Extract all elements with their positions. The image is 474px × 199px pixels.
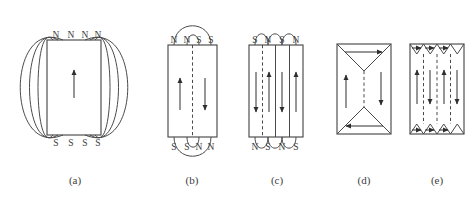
pole-label-a-bottom-1: S	[68, 138, 73, 148]
pole-label-c-top-3: N	[293, 35, 300, 45]
panel-d	[337, 44, 391, 134]
pole-label-a-top-3: N	[95, 30, 102, 40]
pole-label-b-bottom-3: N	[208, 142, 215, 152]
pole-label-b-bottom-1: S	[184, 142, 189, 152]
pole-label-c-bottom-3: S	[293, 142, 298, 152]
pole-label-b-top-3: S	[208, 35, 213, 45]
panel-b: NNSSSSNN	[168, 26, 217, 156]
pole-label-c-top-2: S	[279, 35, 284, 45]
pole-label-c-top-1: N	[265, 35, 272, 45]
panel-caption-a: (a)	[69, 174, 82, 187]
pole-label-a-bottom-0: S	[53, 138, 58, 148]
closure-line-d-2	[337, 107, 364, 134]
field-line-a-left-2	[20, 37, 63, 137]
pole-label-b-top-1: N	[184, 35, 191, 45]
pole-label-b-bottom-2: N	[196, 142, 203, 152]
closure-line-d-0	[337, 44, 364, 71]
field-line-a-left-1	[30, 37, 59, 137]
pole-label-c-top-0: S	[252, 35, 257, 45]
field-line-a-left-0	[38, 37, 53, 137]
panel-caption-d: (d)	[358, 174, 371, 187]
field-line-a-right-4	[90, 37, 119, 137]
pole-label-a-top-0: N	[53, 30, 60, 40]
pole-label-a-top-1: N	[68, 30, 75, 40]
closure-line-d-1	[364, 44, 391, 71]
pole-label-c-bottom-0: N	[252, 142, 259, 152]
panel-c: SNSNNSNS	[249, 34, 303, 152]
pole-label-a-top-2: N	[82, 30, 89, 40]
magnetic-domain-figure: NNNNSSSSNNSSSSNNSNSNNSNS (a)(b)(c)(d)(e)	[0, 0, 474, 199]
panels-layer: NNNNSSSSNNSSSSNNSNSNNSNS	[20, 26, 464, 156]
pole-label-a-bottom-2: S	[82, 138, 87, 148]
closure-line-d-3	[364, 107, 391, 134]
closure-zigzag-e-top	[410, 44, 464, 54]
pole-label-c-bottom-2: N	[279, 142, 286, 152]
pole-label-c-bottom-1: S	[265, 142, 270, 152]
pole-label-b-top-2: S	[196, 35, 201, 45]
field-line-a-right-3	[95, 37, 110, 137]
panel-caption-e: (e)	[431, 174, 444, 187]
pole-label-b-top-0: N	[171, 35, 178, 45]
captions-layer: (a)(b)(c)(d)(e)	[69, 174, 444, 187]
field-line-a-right-5	[85, 37, 128, 137]
panel-caption-b: (b)	[186, 174, 199, 187]
pole-label-a-bottom-3: S	[95, 138, 100, 148]
figure-canvas: NNNNSSSSNNSSSSNNSNSNNSNS (a)(b)(c)(d)(e)	[0, 0, 474, 199]
panel-caption-c: (c)	[271, 174, 284, 187]
pole-label-b-bottom-0: S	[171, 142, 176, 152]
closure-zigzag-e-bottom	[410, 124, 464, 134]
panel-e	[410, 44, 464, 134]
panel-a: NNNNSSSS	[20, 30, 128, 148]
